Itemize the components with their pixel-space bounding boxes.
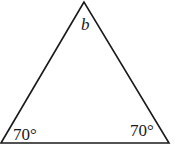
right-angle-label: 70°	[130, 121, 154, 140]
apex-angle-label: b	[81, 15, 90, 34]
left-angle-label: 70°	[13, 125, 37, 144]
triangle-diagram: b 70° 70°	[0, 0, 175, 159]
